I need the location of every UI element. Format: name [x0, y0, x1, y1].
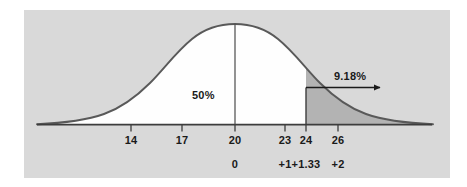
chart-panel: 50% 9.18% 14 17 20 23 24 26 0 +1 +1.33 +… — [24, 10, 450, 178]
z-label-plus2: +2 — [327, 158, 349, 170]
left-area-percent-label: 50% — [192, 89, 215, 101]
axis-label-14: 14 — [121, 134, 141, 146]
z-label-0: 0 — [225, 158, 245, 170]
axis-label-23: 23 — [275, 134, 295, 146]
normal-distribution-chart — [24, 10, 450, 178]
z-label-plus1-33: +1.33 — [290, 158, 322, 170]
axis-label-20: 20 — [225, 134, 245, 146]
axis-label-26: 26 — [328, 134, 348, 146]
axis-label-24: 24 — [296, 134, 316, 146]
axis-label-17: 17 — [172, 134, 192, 146]
tail-area-percent-label: 9.18% — [334, 70, 366, 82]
figure-root: 50% 9.18% 14 17 20 23 24 26 0 +1 +1.33 +… — [0, 0, 467, 187]
